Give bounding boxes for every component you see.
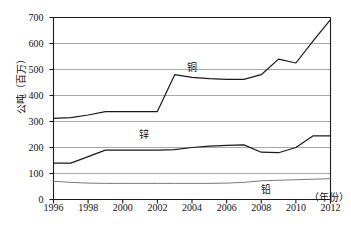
y-tick-label-700: 700 bbox=[14, 13, 44, 23]
plot-frame bbox=[54, 18, 331, 200]
x-tick-label-2012: 2012 bbox=[314, 203, 348, 213]
x-tick-label-2010: 2010 bbox=[279, 203, 313, 213]
line-chart-plot bbox=[0, 0, 351, 236]
y-tick-label-300: 300 bbox=[14, 117, 44, 127]
y-tick-label-500: 500 bbox=[14, 65, 44, 75]
x-tick-label-2000: 2000 bbox=[106, 203, 140, 213]
chart-container: 公吨（百万） （年份） 0100200300400500600700 19961… bbox=[0, 0, 351, 236]
series-label-锌: 锌 bbox=[139, 130, 149, 140]
series-line-锌 bbox=[54, 136, 331, 163]
y-tick-label-600: 600 bbox=[14, 39, 44, 49]
y-tick-label-100: 100 bbox=[14, 169, 44, 179]
x-tick-label-2004: 2004 bbox=[175, 203, 209, 213]
series-label-铜: 铜 bbox=[187, 63, 197, 73]
y-tick-label-400: 400 bbox=[14, 91, 44, 101]
x-tick-label-2002: 2002 bbox=[140, 203, 174, 213]
x-tick-label-1996: 1996 bbox=[37, 203, 71, 213]
x-tick-label-1998: 1998 bbox=[71, 203, 105, 213]
series-label-铅: 铅 bbox=[261, 185, 271, 195]
series-lines bbox=[54, 20, 331, 184]
y-axis-title: 公吨（百万） bbox=[16, 44, 27, 124]
y-tick-marks bbox=[50, 18, 54, 200]
x-tick-label-2008: 2008 bbox=[244, 203, 278, 213]
y-tick-label-200: 200 bbox=[14, 143, 44, 153]
series-line-铅 bbox=[54, 179, 331, 184]
x-tick-label-2006: 2006 bbox=[210, 203, 244, 213]
